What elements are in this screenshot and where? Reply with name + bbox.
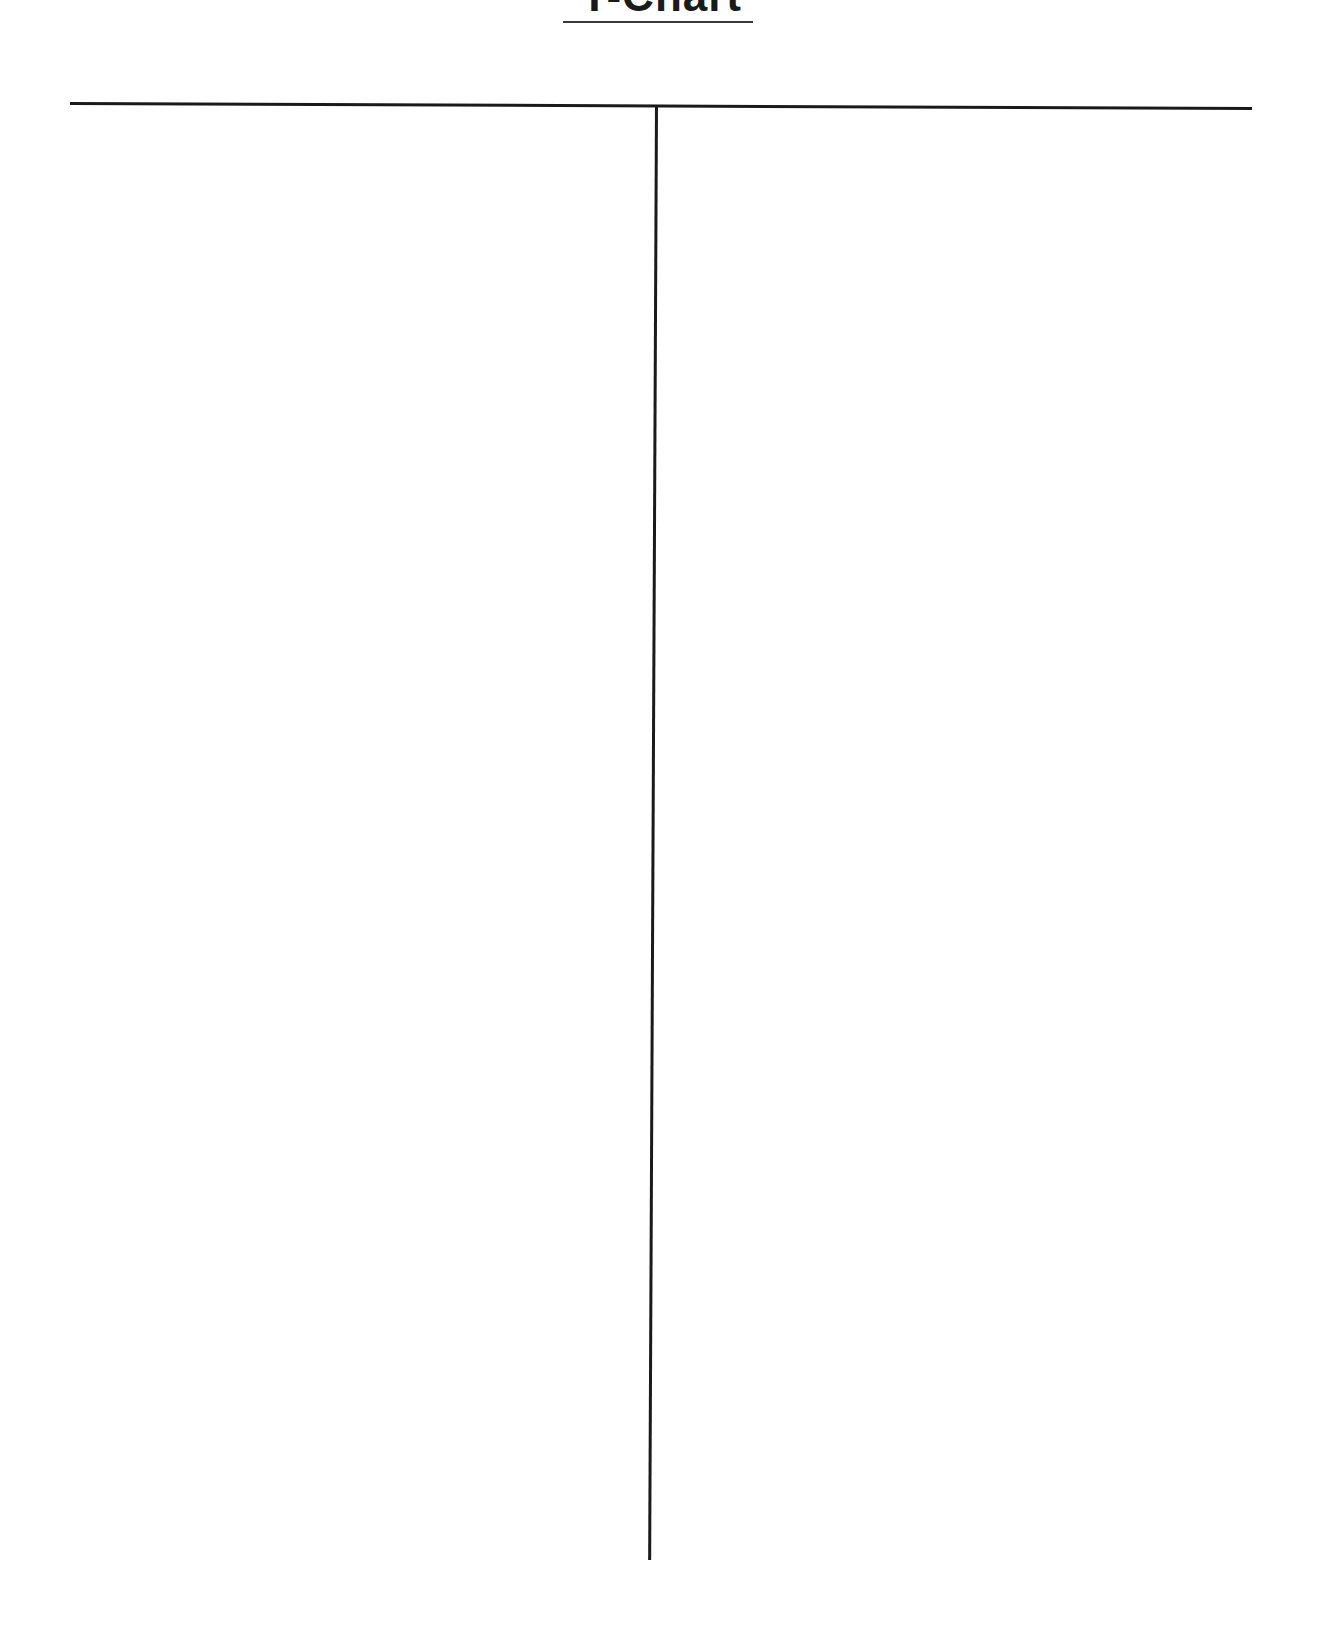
t-chart-horizontal-divider — [70, 102, 1252, 110]
page-title: T-Chart — [0, 0, 1323, 18]
t-chart-left-column — [70, 115, 650, 1545]
t-chart-right-column — [665, 115, 1250, 1545]
title-underline — [563, 21, 753, 23]
